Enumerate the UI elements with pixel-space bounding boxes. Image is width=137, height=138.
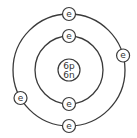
inner-shell-electron: e — [63, 30, 76, 43]
outer-shell-electron: e — [14, 92, 27, 105]
electron-label: e — [66, 9, 72, 19]
outer-shell-electron: e — [63, 8, 76, 21]
electron-label: e — [120, 50, 126, 60]
outer-shell-electron: e — [63, 120, 76, 133]
nucleus: 6p 6n — [58, 59, 80, 81]
electron-label: e — [66, 99, 72, 109]
electron-label: e — [18, 93, 24, 103]
protons-label: 6p — [63, 61, 75, 71]
bohr-model-diagram: 6p 6n eeeeee — [0, 0, 137, 138]
electron-label: e — [66, 31, 72, 41]
outer-shell-electron: e — [117, 49, 130, 62]
inner-shell-electron: e — [63, 98, 76, 111]
neutrons-label: 6n — [63, 70, 74, 80]
electron-label: e — [66, 121, 72, 131]
